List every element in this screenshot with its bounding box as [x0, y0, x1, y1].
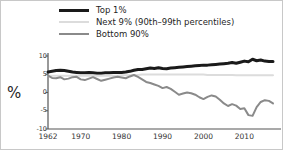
chart-plot-area [1, 1, 283, 150]
series-line-top1 [48, 59, 273, 73]
series-line-bottom90 [48, 75, 273, 116]
series-line-next9 [48, 75, 273, 76]
chart-screenshot: Top 1% Next 9% (90th–99th percentiles) B… [0, 0, 283, 150]
